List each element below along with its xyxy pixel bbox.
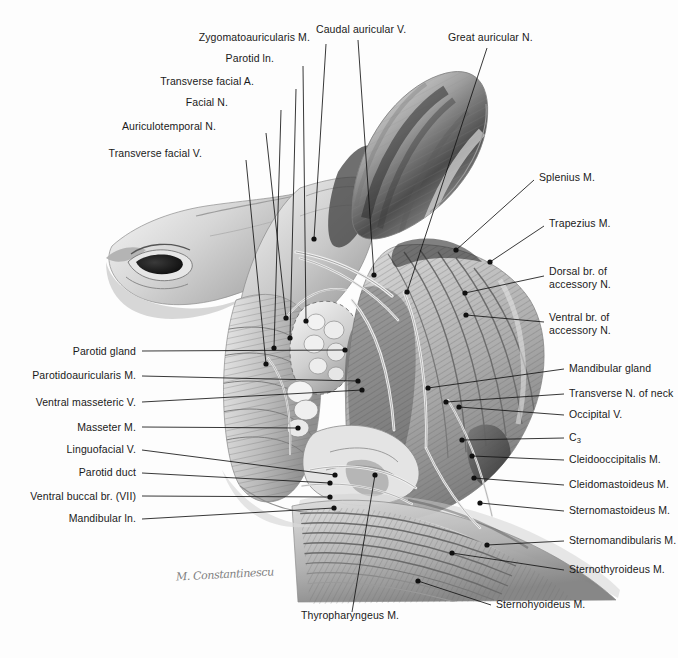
label-ventral-br-accessory-n: Ventral br. of accessory N. xyxy=(549,311,611,336)
label-parotid-duct: Parotid duct xyxy=(0,466,136,479)
label-facial-n: Facial N. xyxy=(0,96,228,109)
label-parotid-gland: Parotid gland xyxy=(0,345,136,358)
figure-canvas: Zygomatoauricularis M.Parotid ln.Transve… xyxy=(0,0,678,658)
label-zygomatoauricularis-m: Zygomatoauricularis M. xyxy=(0,31,310,44)
label-cleidomastoideus-m: Cleidomastoideus M. xyxy=(569,478,669,491)
label-sternomastoideus-m: Sternomastoideus M. xyxy=(569,504,670,517)
label-sternohyoideus-m: Sternohyoideus M. xyxy=(496,598,585,611)
label-parotidoauricularis-m: Parotidoauricularis M. xyxy=(0,369,136,382)
label-caudal-auricular-v: Caudal auricular V. xyxy=(316,23,406,36)
label-mandibular-ln: Mandibular ln. xyxy=(0,512,136,525)
label-auriculotemporal-n: Auriculotemporal N. xyxy=(0,120,216,133)
label-transverse-n-of-neck: Transverse N. of neck xyxy=(569,387,673,400)
label-parotid-ln: Parotid ln. xyxy=(0,52,274,65)
label-ventral-masseteric-v: Ventral masseteric V. xyxy=(0,396,136,409)
label-cleidooccipitalis-m: Cleidooccipitalis M. xyxy=(569,453,661,466)
label-occipital-v: Occipital V. xyxy=(569,408,622,421)
label-c3: C3 xyxy=(569,431,581,448)
label-sternothyroideus-m: Sternothyroideus M. xyxy=(569,563,665,576)
label-text: C xyxy=(569,431,577,443)
label-trapezius-m: Trapezius M. xyxy=(549,217,611,230)
label-thyropharyngeus-m: Thyropharyngeus M. xyxy=(301,609,399,622)
label-linguofacial-v: Linguofacial V. xyxy=(0,443,136,456)
label-splenius-m: Splenius M. xyxy=(539,171,595,184)
label-transverse-facial-a: Transverse facial A. xyxy=(0,75,254,88)
label-ventral-buccal-br-vii: Ventral buccal br. (VII) xyxy=(0,490,136,503)
label-transverse-facial-v: Transverse facial V. xyxy=(0,147,202,160)
label-sternomandibularis-m: Sternomandibularis M. xyxy=(569,534,676,547)
label-masseter-m: Masseter M. xyxy=(0,421,136,434)
label-great-auricular-n: Great auricular N. xyxy=(448,31,533,44)
label-dorsal-br-accessory-n: Dorsal br. of accessory N. xyxy=(549,265,611,290)
label-mandibular-gland: Mandibular gland xyxy=(569,362,651,375)
label-subscript: 3 xyxy=(577,436,581,445)
ear-pinna xyxy=(340,60,500,260)
